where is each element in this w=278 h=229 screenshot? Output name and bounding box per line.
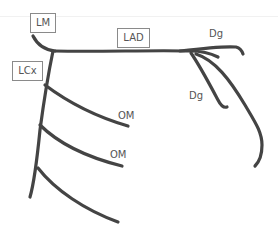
label-lcx: LCx	[12, 61, 43, 81]
label-lad: LAD	[117, 28, 150, 48]
vessel-om-3	[38, 168, 118, 222]
label-om-upper: OM	[118, 111, 135, 121]
label-lm: LM	[30, 13, 56, 33]
vessel-lad-distal	[196, 54, 262, 166]
label-om-lower: OM	[110, 150, 127, 160]
vessel-om-1	[45, 85, 128, 126]
label-dg-lower: Dg	[189, 91, 203, 101]
label-dg-top: Dg	[209, 29, 223, 39]
vessel-left-main	[33, 36, 55, 51]
